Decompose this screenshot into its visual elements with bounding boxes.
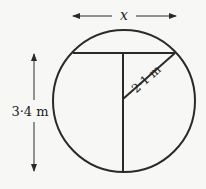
width-label: x xyxy=(120,7,128,23)
circle-diagram: x 3·4 m 2·1 m xyxy=(0,0,206,189)
height-label: 3·4 m xyxy=(11,104,48,119)
